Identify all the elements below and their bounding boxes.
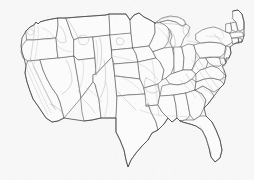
state-wy xyxy=(74,37,95,60)
state-or xyxy=(21,38,58,61)
state-sd xyxy=(110,33,133,50)
us-outline-map xyxy=(0,0,254,180)
state-pa xyxy=(194,42,226,58)
map-svg-canvas xyxy=(0,0,254,180)
state-boundaries-layer xyxy=(21,10,244,167)
state-ma xyxy=(230,32,244,38)
state-ar xyxy=(144,84,160,106)
